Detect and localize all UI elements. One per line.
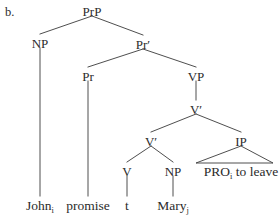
syntax-tree: PrPNPPr′PrVPV′V′IPVNP JohnipromisetMaryj… [0, 0, 280, 216]
tree-node-np1: NP [32, 36, 49, 51]
tree-node-v: V [122, 164, 132, 179]
leaf-text: t [125, 198, 129, 213]
tree-leaf-promise: promise [66, 198, 110, 213]
tree-node-pr: Pr [82, 69, 94, 84]
leaf-text: promise [66, 198, 110, 213]
tree-node-vp: VP [188, 69, 205, 84]
tree-leaf-john: Johni [26, 198, 55, 215]
leaf-subscript: j [185, 205, 188, 215]
tree-node-prbar: Pr′ [136, 37, 151, 52]
tree-leaf-prospan: PROi to leave [204, 164, 278, 181]
tree-leaf-t: t [125, 198, 129, 213]
figure-item-label: b. [5, 5, 14, 19]
tree-node-vbar2: V′ [145, 134, 157, 149]
leaf-text: Mary [157, 198, 186, 213]
tree-edge-Prbar-to-VP [143, 49, 196, 67]
leaf-suffix: to leave [232, 164, 278, 179]
tree-edge-Vbar1-to-IP [196, 114, 241, 132]
tree-leaf-mary: Maryj [157, 198, 189, 215]
tree-nodes: PrPNPPr′PrVPV′V′IPVNP [32, 4, 247, 179]
figure-canvas: PrPNPPr′PrVPV′V′IPVNP JohnipromisetMaryj… [0, 0, 280, 216]
leaf-text: John [26, 198, 52, 213]
tree-leaves: JohnipromisetMaryjPROi to leave [26, 164, 278, 215]
tree-node-prp: PrP [83, 4, 102, 19]
leaf-text: PRO [204, 164, 231, 179]
tree-edge-Prbar-to-Pr [88, 49, 143, 67]
tree-node-np2: NP [165, 164, 182, 179]
tree-node-vbar1: V′ [190, 102, 202, 117]
leaf-subscript: i [52, 205, 55, 215]
tree-node-ip: IP [235, 134, 247, 149]
